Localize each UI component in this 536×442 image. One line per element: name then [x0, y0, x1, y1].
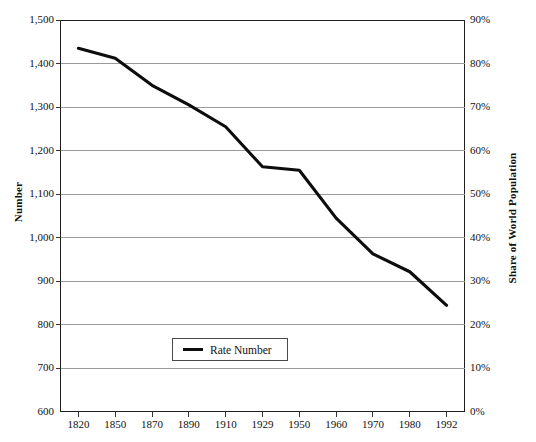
x-axis-tick-label: 1992: [425, 418, 469, 430]
y-axis-left-tick-label: 900: [14, 274, 54, 286]
y-axis-left-tick-label: 700: [14, 361, 54, 373]
y-axis-left-tick-label: 800: [14, 318, 54, 330]
y-axis-left-tick-label: 1,200: [14, 144, 54, 156]
y-axis-right-tick-label: 90%: [470, 13, 510, 25]
y-axis-right-tick-label: 80%: [470, 57, 510, 69]
legend: Rate Number: [172, 338, 288, 361]
gridlines: [60, 64, 465, 369]
y-axis-tickmarks: [54, 20, 61, 412]
y-axis-left-tick-label: 1,400: [14, 57, 54, 69]
y-axis-right-tick-label: 50%: [470, 187, 510, 199]
y-axis-right-tick-label: 0%: [470, 405, 510, 417]
legend-line-swatch: [183, 348, 203, 351]
y-axis-left-tick-label: 1,000: [14, 231, 54, 243]
y-axis-left-tick-label: 1,100: [14, 187, 54, 199]
y-axis-left-tick-label: 1,500: [14, 13, 54, 25]
y-axis-left-tick-label: 1,300: [14, 100, 54, 112]
chart-container: Number Share of World Population 6007008…: [0, 0, 536, 442]
y-axis-right-tick-label: 40%: [470, 231, 510, 243]
y-axis-right-tick-label: 20%: [470, 318, 510, 330]
x-axis-tickmarks: [60, 412, 465, 419]
series-line-rate-number: [78, 48, 446, 305]
y-axis-right-tick-label: 10%: [470, 361, 510, 373]
legend-label-rate-number: Rate Number: [210, 344, 272, 356]
series-rate-number: [78, 48, 446, 305]
y-axis-right-tick-label: 60%: [470, 144, 510, 156]
y-axis-left-tick-label: 600: [14, 405, 54, 417]
y-axis-right-tick-label: 70%: [470, 100, 510, 112]
y-axis-right-tick-label: 30%: [470, 274, 510, 286]
